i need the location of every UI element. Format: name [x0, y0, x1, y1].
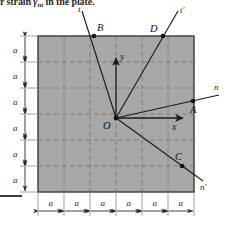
plate-diagram: BtDt'AnCn' yx O aaaaaaaaaaaa [0, 0, 229, 234]
figure-page: r strain γnt in the plate. BtDt'AnCn' yx… [0, 0, 229, 234]
point-C-marker [180, 164, 185, 169]
dimension-label-vertical: a [13, 175, 18, 185]
dimension-label-horizontal: a [153, 198, 158, 208]
point-A-marker [191, 99, 196, 104]
dimension-label-vertical: a [13, 71, 18, 81]
point-C-label: C [175, 151, 183, 162]
axis-label-t: t [78, 4, 81, 14]
axis-label-n-prime: n' [200, 182, 208, 192]
x-axis-label: x [171, 121, 177, 132]
point-B-marker [92, 34, 97, 39]
dimension-label-vertical: a [13, 149, 18, 159]
dimension-label-horizontal: a [179, 198, 184, 208]
y-axis-label: y [119, 51, 125, 62]
dimension-label-horizontal: a [49, 198, 54, 208]
point-D-label: D [149, 23, 158, 34]
origin-label: O [103, 120, 111, 131]
dimension-label-vertical: a [13, 45, 18, 55]
axis-label-t-prime: t' [180, 5, 186, 15]
dimension-label-horizontal: a [75, 198, 80, 208]
dimension-label-horizontal: a [127, 198, 132, 208]
dimension-label-vertical: a [13, 123, 18, 133]
point-D-marker [161, 34, 166, 39]
point-A-label: A [189, 104, 197, 115]
point-B-label: B [97, 22, 104, 33]
dimension-label-horizontal: a [101, 198, 106, 208]
origin-marker [114, 116, 119, 121]
axis-label-n: n [214, 82, 219, 92]
dimension-label-vertical: a [13, 97, 18, 107]
